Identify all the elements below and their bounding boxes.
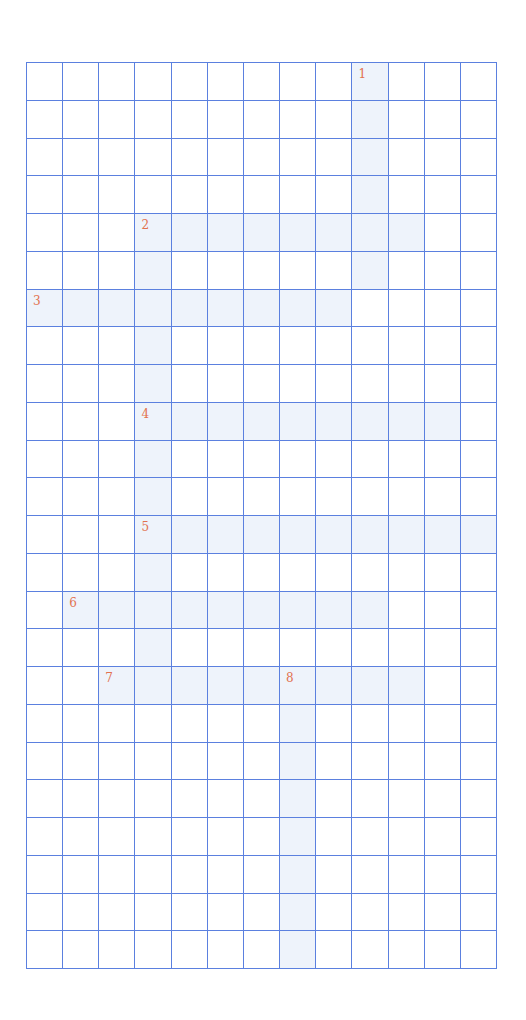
grid-cell bbox=[425, 290, 461, 328]
answer-cell[interactable] bbox=[352, 214, 388, 252]
answer-cell[interactable]: 8 bbox=[280, 667, 316, 705]
grid-cell bbox=[389, 441, 425, 479]
answer-cell[interactable] bbox=[135, 365, 171, 403]
answer-cell[interactable] bbox=[280, 403, 316, 441]
answer-cell[interactable] bbox=[208, 403, 244, 441]
grid-cell bbox=[27, 554, 63, 592]
answer-cell[interactable] bbox=[135, 478, 171, 516]
answer-cell[interactable]: 5 bbox=[135, 516, 171, 554]
answer-cell[interactable] bbox=[135, 629, 171, 667]
grid-cell bbox=[63, 478, 99, 516]
answer-cell[interactable] bbox=[208, 290, 244, 328]
answer-cell[interactable] bbox=[316, 592, 352, 630]
grid-cell bbox=[208, 931, 244, 969]
grid-cell bbox=[316, 365, 352, 403]
grid-cell bbox=[389, 101, 425, 139]
grid-cell bbox=[461, 554, 497, 592]
answer-cell[interactable] bbox=[389, 667, 425, 705]
answer-cell[interactable] bbox=[63, 290, 99, 328]
answer-cell[interactable] bbox=[99, 290, 135, 328]
answer-cell[interactable] bbox=[316, 516, 352, 554]
answer-cell[interactable] bbox=[389, 516, 425, 554]
answer-cell[interactable] bbox=[280, 214, 316, 252]
grid-cell bbox=[99, 214, 135, 252]
grid-cell bbox=[172, 63, 208, 101]
answer-cell[interactable] bbox=[316, 667, 352, 705]
grid-cell bbox=[352, 856, 388, 894]
answer-cell[interactable] bbox=[208, 214, 244, 252]
grid-cell bbox=[99, 856, 135, 894]
grid-cell bbox=[352, 327, 388, 365]
answer-cell[interactable] bbox=[352, 403, 388, 441]
answer-cell[interactable] bbox=[244, 516, 280, 554]
answer-cell[interactable] bbox=[135, 592, 171, 630]
answer-cell[interactable] bbox=[280, 290, 316, 328]
answer-cell[interactable] bbox=[99, 592, 135, 630]
answer-cell[interactable] bbox=[316, 403, 352, 441]
answer-cell[interactable] bbox=[244, 214, 280, 252]
grid-cell bbox=[172, 818, 208, 856]
clue-number: 5 bbox=[141, 521, 149, 533]
answer-cell[interactable] bbox=[352, 252, 388, 290]
answer-cell[interactable] bbox=[352, 139, 388, 177]
grid-cell bbox=[208, 554, 244, 592]
answer-cell[interactable] bbox=[244, 403, 280, 441]
answer-cell[interactable] bbox=[425, 403, 461, 441]
answer-cell[interactable] bbox=[135, 441, 171, 479]
answer-cell[interactable] bbox=[280, 818, 316, 856]
answer-cell[interactable] bbox=[389, 214, 425, 252]
answer-cell[interactable] bbox=[280, 516, 316, 554]
grid-cell bbox=[99, 629, 135, 667]
answer-cell[interactable] bbox=[280, 931, 316, 969]
answer-cell[interactable] bbox=[316, 214, 352, 252]
answer-cell[interactable] bbox=[280, 592, 316, 630]
answer-cell[interactable] bbox=[461, 516, 497, 554]
answer-cell[interactable] bbox=[135, 252, 171, 290]
answer-cell[interactable] bbox=[172, 592, 208, 630]
answer-cell[interactable] bbox=[135, 554, 171, 592]
answer-cell[interactable] bbox=[280, 705, 316, 743]
answer-cell[interactable] bbox=[280, 780, 316, 818]
grid-cell bbox=[244, 629, 280, 667]
answer-cell[interactable] bbox=[280, 894, 316, 932]
grid-cell bbox=[389, 365, 425, 403]
answer-cell[interactable] bbox=[389, 403, 425, 441]
answer-cell[interactable] bbox=[316, 290, 352, 328]
answer-cell[interactable] bbox=[208, 516, 244, 554]
answer-cell[interactable] bbox=[280, 856, 316, 894]
answer-cell[interactable]: 6 bbox=[63, 592, 99, 630]
answer-cell[interactable] bbox=[208, 592, 244, 630]
answer-cell[interactable] bbox=[208, 667, 244, 705]
answer-cell[interactable] bbox=[172, 516, 208, 554]
answer-cell[interactable] bbox=[135, 327, 171, 365]
grid-cell bbox=[425, 365, 461, 403]
answer-cell[interactable] bbox=[352, 592, 388, 630]
grid-cell bbox=[316, 101, 352, 139]
answer-cell[interactable] bbox=[135, 667, 171, 705]
answer-cell[interactable]: 4 bbox=[135, 403, 171, 441]
answer-cell[interactable] bbox=[244, 592, 280, 630]
answer-cell[interactable] bbox=[352, 101, 388, 139]
answer-cell[interactable] bbox=[172, 214, 208, 252]
answer-cell[interactable]: 7 bbox=[99, 667, 135, 705]
answer-cell[interactable] bbox=[352, 667, 388, 705]
answer-cell[interactable] bbox=[352, 516, 388, 554]
answer-cell[interactable] bbox=[244, 667, 280, 705]
answer-cell[interactable] bbox=[425, 516, 461, 554]
grid-cell bbox=[27, 441, 63, 479]
answer-cell[interactable]: 2 bbox=[135, 214, 171, 252]
answer-cell[interactable] bbox=[172, 403, 208, 441]
grid-cell bbox=[135, 743, 171, 781]
grid-cell bbox=[461, 327, 497, 365]
answer-cell[interactable] bbox=[244, 290, 280, 328]
grid-cell bbox=[352, 894, 388, 932]
answer-cell[interactable]: 1 bbox=[352, 63, 388, 101]
answer-cell[interactable] bbox=[352, 176, 388, 214]
grid-cell bbox=[63, 176, 99, 214]
answer-cell[interactable] bbox=[280, 743, 316, 781]
answer-cell[interactable] bbox=[172, 667, 208, 705]
answer-cell[interactable] bbox=[135, 290, 171, 328]
answer-cell[interactable]: 3 bbox=[27, 290, 63, 328]
grid-cell bbox=[172, 629, 208, 667]
answer-cell[interactable] bbox=[172, 290, 208, 328]
